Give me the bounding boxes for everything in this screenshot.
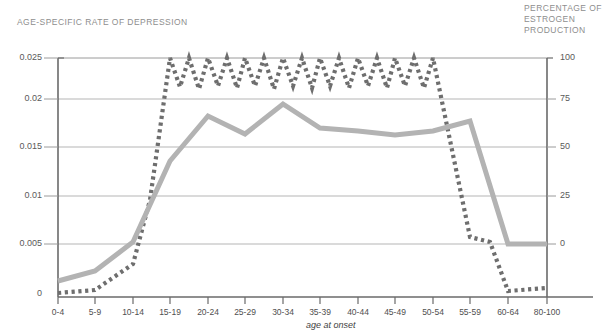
chart-root: AGE-SPECIFIC RATE OF DEPRESSION PERCENTA… bbox=[0, 0, 606, 336]
y-axis-right-ticks bbox=[547, 99, 556, 244]
y-tick-left-0: 0 bbox=[2, 288, 42, 298]
y-tick-right-25: 25 bbox=[560, 190, 600, 200]
y-tick-right-50: 50 bbox=[560, 141, 600, 151]
chart-canvas bbox=[0, 0, 606, 336]
y-tick-right-0: 0 bbox=[560, 238, 600, 248]
y-tick-left-0.025: 0.025 bbox=[2, 52, 42, 62]
y-tick-left-0.01: 0.01 bbox=[2, 190, 42, 200]
x-axis-title: age at onset bbox=[306, 320, 356, 330]
series-estrogen-production bbox=[58, 58, 547, 293]
x-axis-ticks bbox=[58, 297, 547, 304]
y-axis-left-ticks bbox=[44, 58, 58, 244]
gridlines bbox=[58, 58, 547, 244]
y-tick-left-0.02: 0.02 bbox=[2, 93, 42, 103]
y-tick-right-100: 100 bbox=[560, 52, 600, 62]
x-tick-80-100: 80-100 bbox=[523, 307, 571, 317]
axis-lines bbox=[58, 58, 593, 297]
y-tick-right-75: 75 bbox=[560, 93, 600, 103]
y-tick-left-0.005: 0.005 bbox=[2, 238, 42, 248]
series-depression-rate bbox=[58, 104, 547, 281]
y-tick-left-0.015: 0.015 bbox=[2, 141, 42, 151]
